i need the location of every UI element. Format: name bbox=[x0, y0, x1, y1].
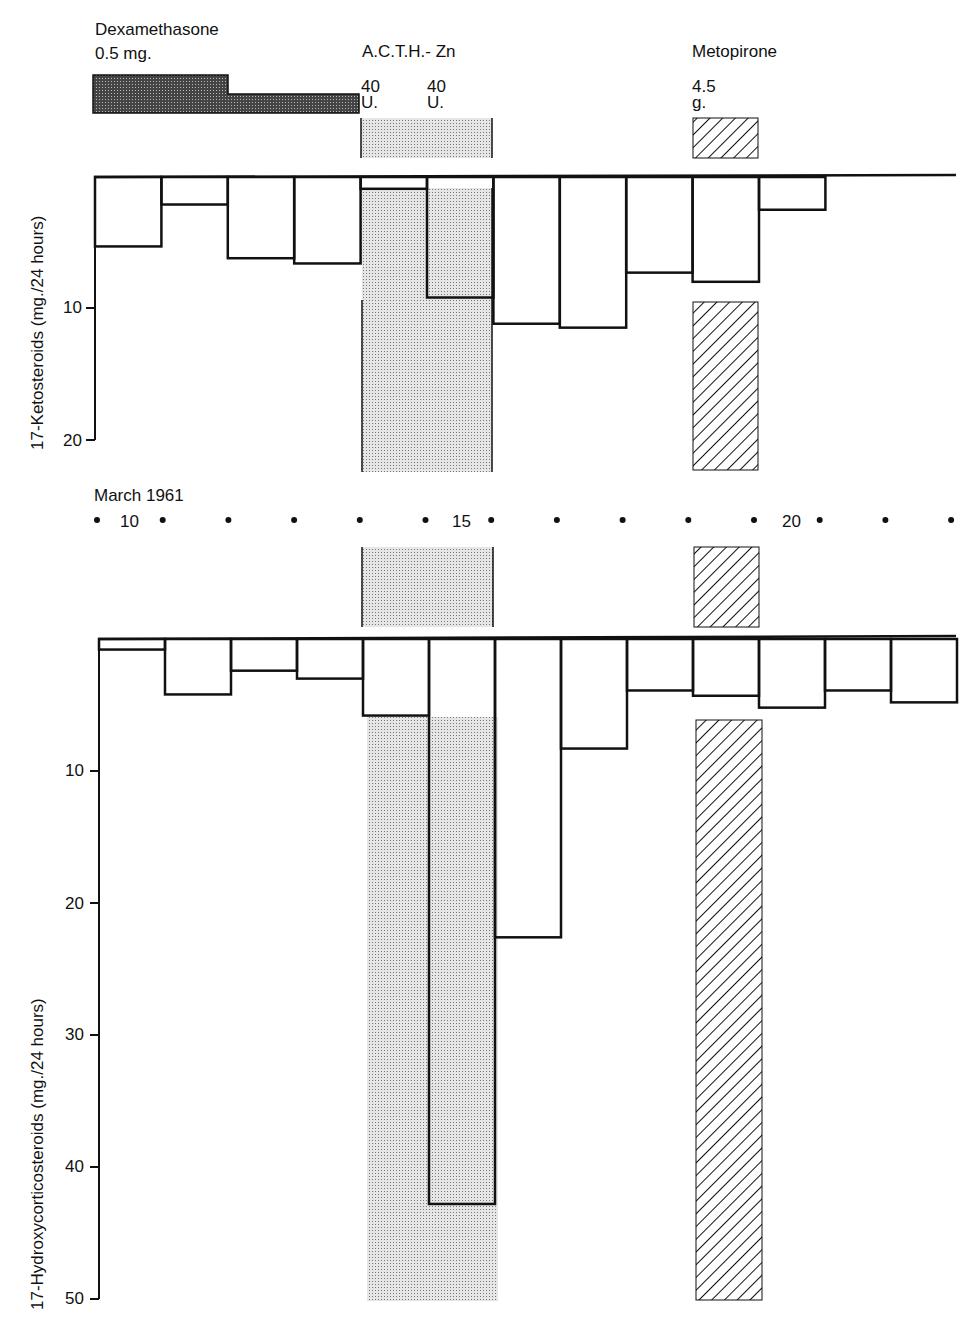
acth-band-middle bbox=[362, 547, 493, 627]
bar-day-20 bbox=[825, 639, 891, 690]
bar-day-17 bbox=[626, 177, 692, 273]
bar-day-11 bbox=[231, 639, 297, 671]
acth-band-bottom-chart bbox=[367, 717, 498, 1301]
bar-day-17 bbox=[627, 639, 693, 690]
bar-day-18 bbox=[693, 639, 759, 696]
metopirone-unit: g. bbox=[692, 94, 706, 112]
metopirone-band-top-chart bbox=[693, 302, 758, 470]
top-ytick-20: 20 bbox=[42, 431, 82, 451]
bar-day-21 bbox=[891, 639, 957, 702]
bottom-y-axis-label: 17-Hydroxycorticosteroids (mg./24 hours) bbox=[28, 998, 48, 1310]
dexamethasone-dose-bar bbox=[93, 75, 359, 113]
bottom-ytick-40: 40 bbox=[44, 1157, 84, 1177]
date-label-15: 15 bbox=[452, 513, 471, 531]
acth-unit-1: U. bbox=[361, 94, 378, 112]
metopirone-band-middle bbox=[694, 547, 759, 627]
dexamethasone-dose: 0.5 mg. bbox=[95, 45, 152, 63]
dexamethasone-label: Dexamethasone bbox=[95, 21, 219, 39]
date-label-10: 10 bbox=[120, 513, 139, 531]
bar-day-16 bbox=[560, 177, 626, 328]
top-y-axis-label: 17-Ketosteroids (mg./24 hours) bbox=[28, 216, 48, 450]
chart-canvas bbox=[0, 0, 976, 1320]
bar-day-18 bbox=[693, 177, 759, 282]
bar-day-10 bbox=[161, 177, 227, 205]
bar-day-13 bbox=[361, 177, 427, 189]
bar-day-19 bbox=[759, 639, 825, 708]
bottom-ytick-20: 20 bbox=[44, 894, 84, 914]
acth-band-top-header bbox=[361, 118, 492, 158]
bar-day-13 bbox=[363, 639, 429, 716]
metopirone-band-top-header bbox=[693, 118, 758, 158]
hydroxycorticosteroid-bars bbox=[99, 639, 957, 1204]
bar-day-16 bbox=[561, 639, 627, 749]
bar-day-9 bbox=[99, 639, 165, 650]
bar-day-12 bbox=[297, 639, 363, 679]
date-label-20: 20 bbox=[782, 513, 801, 531]
bottom-ytick-30: 30 bbox=[44, 1025, 84, 1045]
bottom-ytick-10: 10 bbox=[44, 761, 84, 781]
bar-day-12 bbox=[294, 177, 360, 263]
date-axis-label: March 1961 bbox=[94, 487, 184, 505]
bar-day-15 bbox=[493, 177, 559, 324]
top-ytick-10: 10 bbox=[42, 298, 82, 318]
bottom-ytick-50: 50 bbox=[44, 1289, 84, 1309]
bar-day-10 bbox=[165, 639, 231, 694]
bar-day-11 bbox=[228, 177, 294, 258]
bar-day-19 bbox=[759, 177, 825, 210]
metopirone-label: Metopirone bbox=[692, 43, 777, 61]
acth-unit-2: U. bbox=[427, 94, 444, 112]
bar-day-15 bbox=[495, 639, 561, 937]
date-dots bbox=[94, 517, 954, 523]
acth-label: A.C.T.H.- Zn bbox=[362, 43, 456, 61]
metopirone-band-bottom-chart bbox=[696, 720, 762, 1300]
bar-day-9 bbox=[95, 177, 161, 246]
